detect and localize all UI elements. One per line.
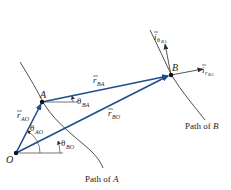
relative-motion-diagram: O A B r AO r BA r BO θ AO θ BO θ BA i θ …: [0, 0, 231, 190]
label-r-bo: r BO: [108, 108, 121, 120]
unit-vector-i-theta-ba: [165, 44, 171, 75]
label-o: O: [6, 154, 13, 165]
svg-text:AO: AO: [34, 129, 44, 135]
point-a: [40, 100, 44, 104]
svg-text:BO: BO: [66, 144, 75, 150]
svg-text:θ: θ: [61, 138, 65, 148]
label-b: B: [172, 62, 178, 73]
svg-text:θ: θ: [157, 37, 160, 43]
svg-text:BA: BA: [161, 39, 167, 44]
vector-r-ba: [42, 76, 168, 102]
label-r-ao: r AO: [17, 110, 30, 122]
theta-bo-arc: [58, 141, 60, 153]
point-o: [14, 151, 18, 155]
vector-r-bo: [16, 76, 168, 153]
label-path-of-a: Path of A: [85, 174, 119, 184]
label-theta-ba: θ BA: [77, 96, 90, 108]
svg-text:BA: BA: [97, 81, 105, 87]
label-theta-ao: θ AO: [30, 123, 44, 135]
label-theta-bo: θ BO: [61, 138, 75, 150]
label-i-r-ba: i r BA: [202, 65, 214, 77]
svg-text:BO: BO: [112, 114, 121, 120]
label-path-of-b: Path of B: [185, 121, 219, 131]
path-of-b-curve: [150, 30, 205, 120]
svg-text:BA: BA: [82, 102, 90, 108]
svg-text:θ: θ: [77, 96, 81, 106]
label-a: A: [39, 89, 47, 100]
point-b: [169, 73, 173, 77]
label-r-ba: r BA: [93, 75, 105, 87]
svg-text:θ: θ: [30, 123, 34, 133]
svg-text:AO: AO: [20, 116, 30, 122]
svg-text:BA: BA: [208, 72, 214, 77]
theta-ba-arc: [72, 96, 73, 102]
